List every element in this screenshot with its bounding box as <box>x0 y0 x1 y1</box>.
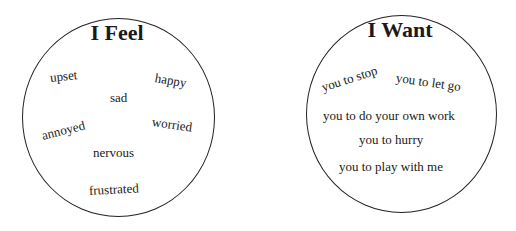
feeling-word: upset <box>49 67 78 86</box>
want-word: you to play with me <box>339 159 443 175</box>
feeling-word: nervous <box>93 145 134 161</box>
want-word: you to do your own work <box>323 108 455 124</box>
want-title: I Want <box>367 17 432 43</box>
feeling-word: frustrated <box>89 180 140 199</box>
feel-title: I Feel <box>90 20 143 46</box>
feeling-word: sad <box>110 90 127 106</box>
want-word: you to hurry <box>359 132 423 148</box>
